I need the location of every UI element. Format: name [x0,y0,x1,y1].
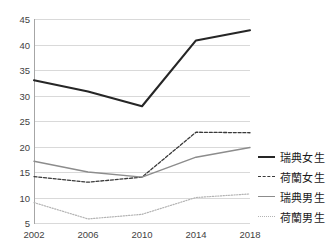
legend-label-2: 瑞典男生 [280,189,325,205]
legend-line-icon-3 [258,212,275,222]
legend-item-0[interactable]: 瑞典女生 [258,147,333,167]
chart-legend: 瑞典女生 荷蘭女生 瑞典男生 荷蘭男生 [258,147,333,227]
legend-label-1: 荷蘭女生 [280,169,325,185]
series-line-2 [34,148,250,178]
legend-item-2[interactable]: 瑞典男生 [258,187,333,207]
legend-label-3: 荷蘭男生 [280,209,325,225]
chart-container: 45 40 35 30 25 20 15 10 5 2002 2006 2010… [0,0,333,252]
legend-label-0: 瑞典女生 [280,149,325,165]
series-line-0 [34,30,250,106]
series-line-3 [34,194,250,219]
legend-line-icon-2 [258,192,275,202]
series-line-1 [34,132,250,182]
legend-line-icon-1 [258,172,275,182]
legend-item-1[interactable]: 荷蘭女生 [258,167,333,187]
legend-item-3[interactable]: 荷蘭男生 [258,207,333,227]
legend-line-icon-0 [258,152,275,162]
